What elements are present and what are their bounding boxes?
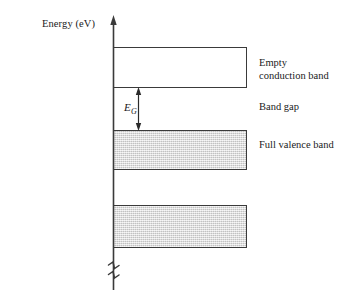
energy-band-diagram: Energy (eV) EG Empty conduction band Ban… xyxy=(0,0,347,295)
diagram-vector-layer xyxy=(0,0,347,295)
band-gap-arrowhead-up xyxy=(136,87,141,95)
axis-break-squiggle-lower xyxy=(109,272,120,279)
band-gap-arrowhead-down xyxy=(136,123,141,131)
axis-break-squiggle-upper xyxy=(109,262,120,269)
energy-axis-arrowhead xyxy=(110,15,116,25)
